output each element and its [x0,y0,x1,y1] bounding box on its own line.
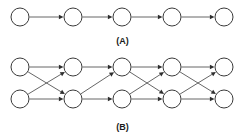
node-b5b [215,90,233,108]
edge-b3b-to-b4t [130,75,160,94]
node-b2b [64,90,82,108]
node-b2t [64,58,82,76]
node-a4 [163,8,181,26]
arrowhead-b2b-to-b3b [108,97,113,102]
node-a2 [64,8,82,26]
arrowhead-b2b-to-b3t [109,72,114,76]
arrowhead-b3t-to-b4t [158,65,163,70]
nodes-layer [11,8,233,108]
node-a3 [113,8,131,26]
arrowhead-a2-to-a3 [108,15,113,20]
node-b1b [11,90,29,108]
edge-b4b-to-b5t [180,74,212,94]
node-b3b [113,90,131,108]
edge-b1b-to-b2t [28,74,61,94]
arrowhead-a1-to-a2 [59,15,64,20]
edge-b1t-to-b2b [28,72,61,92]
arrowhead-b3t-to-b4b [159,89,164,93]
graph-figure-canvas [0,0,245,138]
panel-label-b: (B) [0,122,245,132]
panel-label-a: (A) [0,36,245,46]
node-b5t [215,58,233,76]
arrowhead-b1b-to-b2b [59,97,64,102]
arrowhead-b4b-to-b5b [210,97,215,102]
node-b4t [163,58,181,76]
node-b3t [113,58,131,76]
node-b1t [11,58,29,76]
edge-b3t-to-b4b [130,72,160,91]
arrowhead-b3b-to-b4b [158,97,163,102]
arrowhead-b4t-to-b5t [210,65,215,70]
arrowhead-b3b-to-b4t [159,72,164,76]
node-a1 [11,8,29,26]
arrowhead-b1t-to-b2t [59,65,64,70]
edge-b4t-to-b5b [180,72,212,92]
node-b4b [163,90,181,108]
arrowhead-a3-to-a4 [158,15,163,20]
arrowhead-b2t-to-b3t [108,65,113,70]
arrowhead-a4-to-a5 [210,15,215,20]
figure-root: (A) (B) [0,0,245,138]
node-a5 [215,8,233,26]
edge-b2b-to-b3t [81,75,110,94]
